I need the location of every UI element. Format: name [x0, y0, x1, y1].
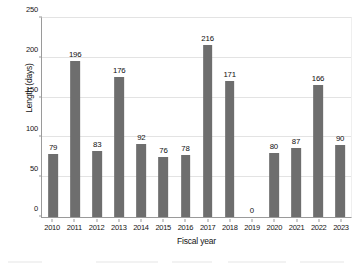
x-tick-mark: [185, 219, 186, 222]
x-tick: 2012: [85, 219, 107, 233]
bar-category: 216: [197, 18, 219, 217]
bar-value-label: 87: [292, 137, 300, 146]
bar-category: 166: [307, 18, 329, 217]
bar: [92, 151, 102, 217]
bar: [291, 148, 301, 217]
x-tick-label: 2020: [267, 223, 283, 232]
x-tick-mark: [340, 219, 341, 222]
x-tick-mark: [96, 219, 97, 222]
bar-category: 78: [174, 18, 196, 217]
x-tick-mark: [252, 219, 253, 222]
bar: [203, 45, 213, 217]
bar: [136, 144, 146, 217]
bar-category: 76: [152, 18, 174, 217]
bar-value-label: 216: [201, 34, 213, 43]
x-tick-mark: [207, 219, 208, 222]
page-bottom-edge-artifact: [0, 259, 361, 267]
y-tick-label: 250: [26, 5, 38, 14]
x-tick: 2022: [308, 219, 330, 233]
scan-artifact: [172, 261, 212, 263]
x-tick: 2020: [263, 219, 285, 233]
scan-artifact: [96, 261, 158, 263]
plot-area: 050100150200250 791968317692767821617108…: [41, 17, 352, 218]
x-tick-label: 2017: [200, 223, 216, 232]
x-tick-label: 2011: [67, 223, 82, 232]
x-tick-mark: [118, 219, 119, 222]
bar-value-label: 176: [113, 66, 125, 75]
bar: [181, 155, 191, 217]
bar-value-label: 79: [49, 143, 57, 152]
x-tick-label: 2015: [155, 223, 171, 232]
bar-value-label: 171: [223, 70, 235, 79]
x-tick-mark: [318, 219, 319, 222]
scan-artifact: [300, 261, 344, 263]
y-tick-label: 50: [30, 164, 38, 173]
x-tick-label: 2018: [222, 223, 238, 232]
x-tick: 2013: [108, 219, 130, 233]
x-tick: 2015: [152, 219, 174, 233]
scan-artifact: [228, 261, 286, 263]
bar-category: 90: [329, 18, 351, 217]
bar: [48, 154, 58, 217]
bar-value-label: 78: [181, 144, 189, 153]
y-axis-title: Length (days): [22, 0, 36, 188]
bar-category: 80: [263, 18, 285, 217]
bar: [159, 157, 169, 217]
x-tick-mark: [74, 219, 75, 222]
bar-category: 92: [130, 18, 152, 217]
bar: [335, 145, 345, 217]
bar-value-label: 90: [336, 134, 344, 143]
x-tick: 2014: [130, 219, 152, 233]
bar-value-label: 0: [250, 206, 254, 215]
bar-value-label: 80: [270, 142, 278, 151]
x-axis-ticks: 2010201120122013201420152016201720182019…: [41, 219, 352, 233]
x-tick: 2017: [197, 219, 219, 233]
bar: [70, 61, 80, 217]
bar-category: 87: [285, 18, 307, 217]
bar-value-label: 92: [137, 133, 145, 142]
bar: [269, 153, 279, 217]
x-tick-mark: [274, 219, 275, 222]
x-tick-label: 2023: [333, 223, 349, 232]
bar-category: 176: [108, 18, 130, 217]
bar-category: 171: [219, 18, 241, 217]
x-tick-mark: [163, 219, 164, 222]
y-tick-label: 150: [26, 84, 38, 93]
x-tick-label: 2014: [133, 223, 149, 232]
bar-value-label: 196: [69, 50, 81, 59]
bar-series: 79196831769276782161710808716690: [42, 18, 351, 217]
x-tick: 2019: [241, 219, 263, 233]
bar-category: 83: [86, 18, 108, 217]
scan-artifact: [8, 261, 42, 263]
x-tick-label: 2016: [178, 223, 194, 232]
x-tick-mark: [52, 219, 53, 222]
bar-value-label: 166: [312, 74, 324, 83]
x-tick: 2018: [219, 219, 241, 233]
x-tick: 2016: [174, 219, 196, 233]
bar-category: 79: [42, 18, 64, 217]
x-tick-label: 2019: [244, 223, 260, 232]
x-axis-title: Fiscal year: [41, 236, 352, 246]
bar: [225, 81, 235, 217]
x-tick-label: 2022: [311, 223, 327, 232]
x-tick-mark: [296, 219, 297, 222]
x-tick-label: 2021: [289, 223, 305, 232]
bar: [114, 77, 124, 217]
x-tick: 2021: [285, 219, 307, 233]
x-tick: 2010: [41, 219, 63, 233]
bar-value-label: 76: [159, 146, 167, 155]
bar-value-label: 83: [93, 140, 101, 149]
x-tick-mark: [140, 219, 141, 222]
bar-category: 196: [64, 18, 86, 217]
x-tick-label: 2012: [89, 223, 105, 232]
x-tick-label: 2013: [111, 223, 127, 232]
bar: [313, 85, 323, 217]
x-tick: 2011: [63, 219, 85, 233]
bar-category: 0: [241, 18, 263, 217]
bar-chart-figure: Length (days) 050100150200250 7919683176…: [0, 0, 361, 267]
y-tick-label: 200: [26, 44, 38, 53]
y-tick-label: 100: [26, 124, 38, 133]
x-tick-label: 2010: [44, 223, 60, 232]
y-tick-label: 0: [34, 204, 38, 213]
x-tick: 2023: [330, 219, 352, 233]
